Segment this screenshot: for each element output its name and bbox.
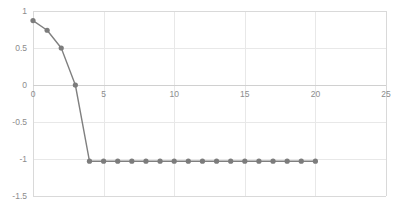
y-axis-tick-label: -0.5 [12,117,27,127]
y-axis-tick-labels: 10.50-0.5-1-1.5 [12,6,27,201]
data-point-marker [172,159,177,164]
x-axis-tick-label: 20 [311,89,321,99]
chart-container: 10.50-0.5-1-1.5 0510152025 [0,0,402,208]
line-chart: 10.50-0.5-1-1.5 0510152025 [0,0,402,208]
y-axis-tick-label: -1.5 [12,191,27,201]
data-point-marker [143,159,148,164]
data-point-marker [186,159,191,164]
data-point-marker [87,159,92,164]
data-point-marker [228,159,233,164]
data-point-marker [285,159,290,164]
x-axis-tick-label: 25 [381,89,391,99]
data-point-marker [73,82,78,87]
data-point-marker [157,159,162,164]
y-axis-tick-label: 1 [22,6,27,16]
y-axis-tick-label: 0 [22,80,27,90]
data-point-marker [30,18,35,23]
y-axis-tick-label: -1 [19,154,27,164]
plot-background [33,11,386,196]
data-point-marker [256,159,261,164]
data-point-marker [242,159,247,164]
data-point-marker [299,159,304,164]
data-point-marker [129,159,134,164]
data-point-marker [270,159,275,164]
data-point-marker [214,159,219,164]
data-point-marker [313,159,318,164]
x-axis-tick-label: 0 [31,89,36,99]
x-axis-tick-label: 15 [240,89,250,99]
data-point-marker [101,159,106,164]
x-axis-tick-label: 5 [101,89,106,99]
data-point-marker [200,159,205,164]
data-point-marker [59,45,64,50]
data-point-marker [115,159,120,164]
data-point-marker [45,28,50,33]
x-axis-tick-label: 10 [169,89,179,99]
y-axis-tick-label: 0.5 [15,43,27,53]
